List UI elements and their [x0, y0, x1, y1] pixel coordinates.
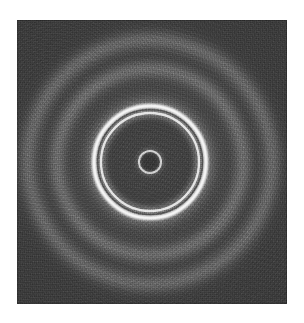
ring-central-beam — [139, 151, 161, 173]
ring-inner-bright-glow — [101, 113, 199, 211]
film-grain-layer-2 — [17, 20, 287, 304]
ring-overlay — [17, 20, 287, 304]
ring-central-beam-glow — [139, 151, 161, 173]
plate-vignette — [17, 20, 287, 304]
ring-middle-diffuse — [57, 69, 243, 255]
figure-root: Electron diffraction pattern: concentric… — [0, 0, 304, 323]
film-grain-layer-1 — [17, 20, 287, 304]
ring-outer-diffuse-halo — [28, 40, 272, 284]
ring-principal-glow — [94, 106, 206, 218]
ring-inner-shoulder — [80, 92, 220, 232]
ring-inner-bright — [101, 113, 199, 211]
diffraction-plate — [17, 20, 287, 304]
ring-principal-bright — [94, 106, 206, 218]
ring-middle-diffuse-halo — [57, 69, 243, 255]
ring-outer-diffuse — [28, 40, 272, 284]
central-beam-stop — [141, 153, 159, 171]
ring-gap-dark — [98, 110, 203, 215]
